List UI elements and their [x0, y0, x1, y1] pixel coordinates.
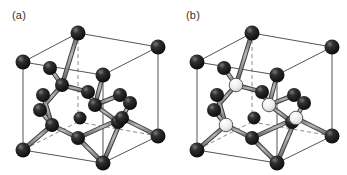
panel-a: (a) [0, 0, 173, 175]
panel-b-diagram [174, 0, 347, 175]
panel-b: (b) [174, 0, 347, 175]
panel-a-diagram [0, 0, 173, 175]
crystal-structure-figure: (a) [0, 0, 347, 175]
